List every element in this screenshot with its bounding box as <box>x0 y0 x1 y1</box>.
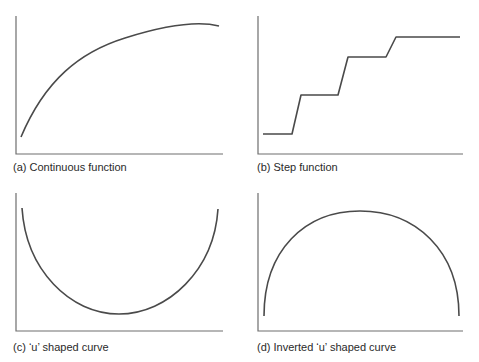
panel-a-chart <box>16 16 223 154</box>
panel-a-axes <box>16 16 223 154</box>
panel-b-caption: (b) Step function <box>257 161 338 173</box>
panel-d-caption: (d) Inverted ‘u’ shaped curve <box>257 341 396 353</box>
panel-d-inverted-u-curve <box>264 211 459 316</box>
panel-c-chart <box>16 193 223 331</box>
panel-d-axes <box>258 193 463 331</box>
panel-b-chart <box>258 16 463 154</box>
panel-a-continuous-curve <box>21 24 219 137</box>
figure-canvas <box>0 0 479 362</box>
panel-b-step-curve <box>263 37 460 134</box>
panel-a-caption: (a) Continuous function <box>13 161 127 173</box>
panel-c-caption: (c) ‘u’ shaped curve <box>13 341 109 353</box>
panel-c-u-curve <box>22 208 218 314</box>
panel-c-axes <box>16 193 223 331</box>
panel-d-chart <box>258 193 463 331</box>
